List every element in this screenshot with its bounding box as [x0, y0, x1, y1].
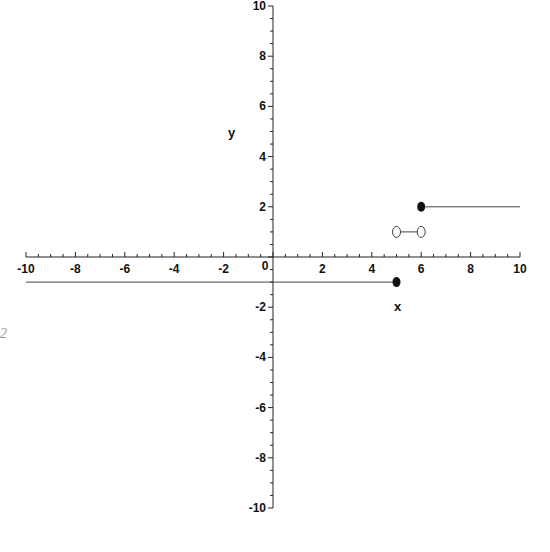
y-tick-label: -10	[249, 501, 267, 515]
x-tick-label: -6	[119, 262, 130, 276]
x-axis-title: x	[394, 299, 402, 314]
closed-dot	[393, 277, 401, 287]
y-tick-label: 4	[259, 150, 266, 164]
y-axis-title: y	[228, 125, 236, 140]
step-function-plot: -10-8-6-4-20246810-10-8-6-4-2246810 x y	[0, 0, 550, 552]
x-tick-label: 10	[513, 262, 527, 276]
x-tick-label: -8	[70, 262, 81, 276]
x-tick-label: 2	[319, 262, 326, 276]
y-tick-label: 8	[259, 49, 266, 63]
x-tick-label: -4	[169, 262, 180, 276]
x-tick-label: 0	[262, 259, 269, 273]
y-tick-label: -2	[255, 300, 266, 314]
y-tick-label: 2	[259, 200, 266, 214]
y-tick-label: -4	[255, 350, 266, 364]
x-tick-label: 6	[418, 262, 425, 276]
y-tick-label: 6	[259, 99, 266, 113]
closed-dot	[417, 202, 425, 212]
x-tick-label: -10	[17, 262, 35, 276]
x-tick-label: 8	[467, 262, 474, 276]
tick-marks	[26, 6, 520, 508]
x-tick-label: 4	[368, 262, 375, 276]
x-tick-label: -2	[218, 262, 229, 276]
y-tick-label: -8	[255, 451, 266, 465]
y-tick-label: -6	[255, 401, 266, 415]
open-dot	[417, 226, 425, 237]
y-tick-label: 10	[253, 0, 267, 13]
cropped-edge-glyph: 2	[0, 326, 7, 342]
open-dot	[393, 226, 401, 237]
